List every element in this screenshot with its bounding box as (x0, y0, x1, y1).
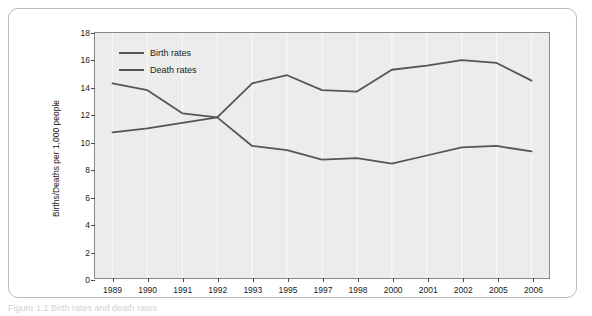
x-tick-label: 1992 (208, 285, 227, 295)
x-tick-mark (218, 278, 219, 282)
legend-item-label: Birth rates (150, 48, 191, 58)
x-tick-mark (358, 278, 359, 282)
x-tick-mark (428, 278, 429, 282)
x-tick-label: 2005 (489, 285, 508, 295)
x-tick-label: 1993 (243, 285, 262, 295)
legend-item-label: Death rates (150, 65, 197, 75)
y-tick-label: 4 (85, 220, 90, 230)
x-tick-mark (393, 278, 394, 282)
x-tick-label: 1989 (103, 285, 122, 295)
legend-line-icon (119, 52, 144, 54)
chart-plot-area: Births/Deaths per 1,000 people 024681012… (94, 32, 550, 279)
figure-caption: Figure 1.1 Birth rates and death rates (8, 303, 408, 314)
x-tick-label: 2000 (384, 285, 403, 295)
y-tick-label: 14 (81, 83, 90, 93)
y-tick-label: 16 (81, 55, 90, 65)
x-tick-mark (533, 278, 534, 282)
y-tick-label: 0 (85, 275, 90, 285)
x-tick-label: 2002 (454, 285, 473, 295)
x-tick-label: 1991 (173, 285, 192, 295)
y-tick-label: 2 (85, 248, 90, 258)
x-tick-label: 1997 (314, 285, 333, 295)
x-tick-label: 2001 (419, 285, 438, 295)
legend-line-icon (119, 69, 144, 71)
legend-item-death-rates: Death rates (119, 61, 197, 78)
x-tick-mark (183, 278, 184, 282)
y-tick-label: 8 (85, 165, 90, 175)
y-tick-label: 10 (81, 138, 90, 148)
x-tick-mark (253, 278, 254, 282)
x-tick-mark (463, 278, 464, 282)
x-tick-label: 1990 (138, 285, 157, 295)
x-tick-label: 1998 (349, 285, 368, 295)
x-tick-mark (113, 278, 114, 282)
figure-frame: Births/Deaths per 1,000 people 024681012… (8, 8, 577, 298)
x-tick-mark (288, 278, 289, 282)
y-tick-mark (91, 280, 95, 281)
x-tick-mark (323, 278, 324, 282)
y-tick-label: 18 (81, 28, 90, 38)
legend-item-birth-rates: Birth rates (119, 44, 197, 61)
chart-legend: Birth rates Death rates (119, 44, 197, 78)
x-tick-label: 1995 (278, 285, 297, 295)
y-axis-title: Births/Deaths per 1,000 people (49, 35, 63, 282)
x-tick-mark (148, 278, 149, 282)
x-tick-mark (498, 278, 499, 282)
x-tick-label: 2006 (524, 285, 543, 295)
y-tick-label: 12 (81, 110, 90, 120)
y-tick-label: 6 (85, 193, 90, 203)
